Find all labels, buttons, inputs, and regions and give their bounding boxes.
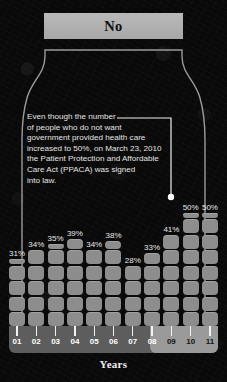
tick-mark xyxy=(36,326,37,336)
bar-segment-top xyxy=(105,241,121,248)
bar-segment xyxy=(144,266,160,280)
bar-value-label: 41% xyxy=(163,225,179,234)
bar-segment xyxy=(67,297,83,311)
bar-segment xyxy=(67,250,83,264)
bar-segment xyxy=(105,250,121,264)
bar-segment xyxy=(125,266,141,280)
bar xyxy=(125,266,141,327)
bar xyxy=(28,250,44,326)
bar-segment xyxy=(125,297,141,311)
bar-segment xyxy=(144,312,160,326)
bar-segment xyxy=(105,266,121,280)
tick-mark xyxy=(151,326,152,336)
tick-mark xyxy=(209,326,210,336)
tick-mark xyxy=(190,326,191,336)
bar-value-label: 39% xyxy=(67,229,83,238)
bar-segment xyxy=(183,297,199,311)
bar-column: 50% xyxy=(183,203,199,327)
bar-value-label: 50% xyxy=(202,203,218,212)
year-label: 06 xyxy=(109,337,118,346)
bar-segment xyxy=(28,297,44,311)
bar-value-label: 34% xyxy=(28,240,44,249)
bar-segment xyxy=(28,312,44,326)
bar-segment xyxy=(9,312,25,326)
bar-segment xyxy=(86,297,102,311)
bar-segment xyxy=(48,312,64,326)
bar-segment xyxy=(48,297,64,311)
bar-column: 50% xyxy=(202,203,218,327)
bar-segment xyxy=(28,250,44,264)
bar-segment-top xyxy=(183,213,199,218)
bar-column: 34% xyxy=(86,240,102,326)
bar-segment xyxy=(183,250,199,264)
bar-segment xyxy=(125,312,141,326)
bar-value-label: 34% xyxy=(86,240,102,249)
year-label: 03 xyxy=(51,337,60,346)
bar xyxy=(48,244,64,327)
bar-segment xyxy=(202,219,218,233)
bar-segment xyxy=(202,250,218,264)
bar-segment xyxy=(67,312,83,326)
bar-column: 35% xyxy=(48,234,64,327)
bar-value-label: 35% xyxy=(48,234,64,243)
bar xyxy=(105,241,121,326)
bar-column: 31% xyxy=(9,249,25,326)
year-label: 09 xyxy=(167,337,176,346)
bar-column: 28% xyxy=(125,256,141,327)
bar xyxy=(144,253,160,326)
tick-mark xyxy=(55,326,56,336)
bar-segment xyxy=(183,219,199,233)
year-label: 01 xyxy=(13,337,22,346)
bar-segment xyxy=(67,281,83,295)
bar-segment xyxy=(202,297,218,311)
bar-column: 34% xyxy=(28,240,44,326)
bar-column: 38% xyxy=(105,231,121,326)
bar-segment-top xyxy=(144,253,160,264)
axis-tick-04: 04 xyxy=(67,326,83,346)
bar-segment xyxy=(86,250,102,264)
axis-tick-08: 08 xyxy=(144,326,160,346)
bar-segment xyxy=(163,281,179,295)
bar-segment xyxy=(9,297,25,311)
bar-segment xyxy=(105,312,121,326)
bar-value-label: 50% xyxy=(183,203,199,212)
bar-segment xyxy=(202,235,218,249)
year-label: 04 xyxy=(70,337,79,346)
bar-value-label: 38% xyxy=(105,231,121,240)
axis-tick-06: 06 xyxy=(105,326,121,346)
bar-segment xyxy=(48,266,64,280)
year-label: 11 xyxy=(206,337,214,346)
year-label: 07 xyxy=(128,337,137,346)
bar-segment xyxy=(28,281,44,295)
bar xyxy=(202,213,218,327)
bar-segment xyxy=(86,281,102,295)
bar-segment xyxy=(144,281,160,295)
year-label: 05 xyxy=(90,337,99,346)
bar-segment xyxy=(163,297,179,311)
bar-segment xyxy=(163,235,179,249)
annotation-text: Even though the number of people who do … xyxy=(27,112,165,186)
axis-tick-07: 07 xyxy=(125,326,141,346)
bar-segment xyxy=(86,312,102,326)
bar-segment xyxy=(183,281,199,295)
bar-segment-top xyxy=(9,259,25,264)
axis-tick-11: 11 xyxy=(202,326,218,346)
bar-value-label: 33% xyxy=(144,243,160,252)
bar-segment xyxy=(163,266,179,280)
bar-segment-top xyxy=(202,213,218,218)
bar-segment xyxy=(48,281,64,295)
bar-segment xyxy=(105,281,121,295)
bar-segment xyxy=(67,266,83,280)
year-label: 10 xyxy=(186,337,195,346)
bar-column: 33% xyxy=(144,243,160,326)
bar-segment xyxy=(183,235,199,249)
bar-segment xyxy=(86,266,102,280)
year-label: 08 xyxy=(148,337,157,346)
tick-mark xyxy=(132,326,133,336)
tick-mark xyxy=(16,326,17,336)
bar-segment xyxy=(202,266,218,280)
axis-tick-10: 10 xyxy=(183,326,199,346)
tick-mark xyxy=(113,326,114,336)
bar-segment xyxy=(202,281,218,295)
tick-mark xyxy=(94,326,95,336)
